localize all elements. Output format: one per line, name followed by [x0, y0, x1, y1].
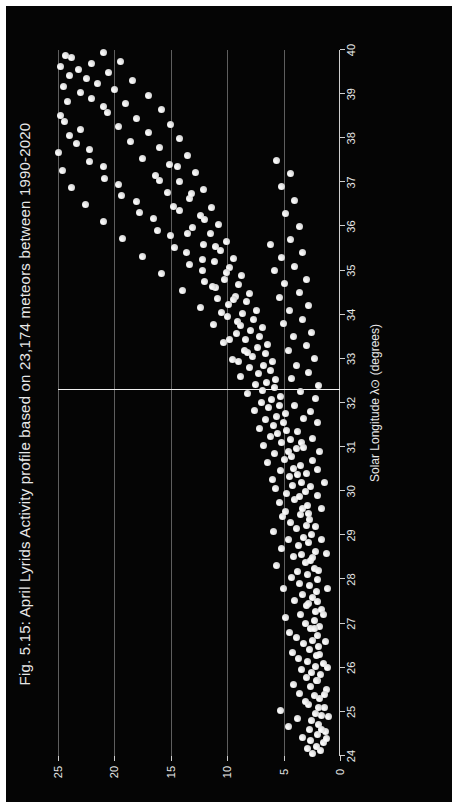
data-point [210, 321, 217, 328]
data-point [186, 261, 193, 268]
data-point [250, 316, 257, 323]
y-tick-25 [58, 756, 59, 761]
data-point [309, 750, 316, 757]
data-point [167, 121, 174, 128]
data-point [59, 167, 66, 174]
data-point [199, 267, 206, 274]
x-tick-label-27: 27 [345, 618, 357, 630]
data-point [119, 235, 126, 242]
data-point [256, 425, 263, 432]
data-point [303, 276, 310, 283]
data-point [312, 523, 319, 530]
data-point [297, 462, 304, 469]
gridline-zhr-5 [284, 50, 285, 756]
data-point [308, 329, 315, 336]
data-point [296, 289, 303, 296]
data-point [295, 655, 302, 662]
data-point [192, 169, 199, 176]
data-point [184, 230, 191, 237]
data-point [276, 294, 283, 301]
data-point [61, 118, 68, 125]
data-point [77, 126, 84, 133]
data-point [273, 562, 280, 569]
data-point [139, 155, 146, 162]
data-point [285, 536, 292, 543]
data-point [296, 494, 303, 501]
data-point [280, 320, 287, 327]
figure-panel: Fig. 5.15: April Lyrids Activity profile… [6, 6, 452, 802]
chart-title: Fig. 5.15: April Lyrids Activity profile… [16, 6, 33, 802]
data-point [278, 254, 285, 261]
data-point [290, 681, 297, 688]
data-point [305, 302, 312, 309]
data-point [318, 536, 325, 543]
data-point [290, 333, 297, 340]
data-point [260, 362, 267, 369]
data-point [314, 576, 321, 583]
data-point [199, 256, 206, 263]
data-point [264, 341, 271, 348]
data-point [282, 210, 289, 217]
data-point [150, 215, 157, 222]
data-point [209, 283, 216, 290]
data-point [57, 112, 64, 119]
data-point [282, 508, 289, 515]
data-point [293, 445, 300, 452]
data-point [291, 402, 298, 409]
data-point [259, 387, 266, 394]
data-point [233, 330, 240, 337]
data-point [171, 244, 178, 251]
x-tick-label-36: 36 [345, 220, 357, 232]
figure-page: Fig. 5.15: April Lyrids Activity profile… [0, 0, 458, 808]
data-point [303, 342, 310, 349]
data-point [300, 415, 307, 422]
data-point [277, 707, 284, 714]
data-point [280, 585, 287, 592]
data-point [252, 381, 259, 388]
data-point [316, 651, 323, 658]
data-point [314, 466, 321, 473]
data-point [243, 298, 250, 305]
data-point [100, 163, 107, 170]
data-point [299, 249, 306, 256]
data-point [251, 407, 258, 414]
y-tick-label-20: 20 [108, 766, 120, 778]
data-point [285, 347, 292, 354]
data-point [315, 704, 322, 711]
data-point [308, 531, 315, 538]
data-point [237, 373, 244, 380]
gridline-zhr-15 [171, 50, 172, 756]
data-point [291, 263, 298, 270]
data-point [267, 433, 274, 440]
data-point [325, 713, 332, 720]
data-point [295, 542, 302, 549]
data-point [262, 350, 269, 357]
data-point [320, 611, 327, 618]
data-point [305, 510, 312, 517]
data-point [273, 413, 280, 420]
zhr-zero-axis [339, 50, 340, 756]
data-point [255, 370, 262, 377]
data-point [208, 204, 215, 211]
data-point [286, 629, 293, 636]
y-tick-label-15: 15 [165, 766, 177, 778]
data-point [303, 470, 310, 477]
data-point [235, 358, 242, 365]
data-point [285, 448, 292, 455]
data-point [305, 369, 312, 376]
data-point [115, 123, 122, 130]
data-point [298, 666, 305, 673]
data-point [296, 223, 303, 230]
data-point [274, 430, 281, 437]
data-point [105, 69, 112, 76]
data-point [101, 175, 108, 182]
data-point [139, 253, 146, 260]
data-point [122, 100, 129, 107]
data-point [188, 190, 195, 197]
data-point [314, 598, 321, 605]
data-point [280, 419, 287, 426]
data-point [184, 152, 191, 159]
data-point [287, 170, 294, 177]
data-point [302, 620, 309, 627]
data-point [305, 600, 312, 607]
